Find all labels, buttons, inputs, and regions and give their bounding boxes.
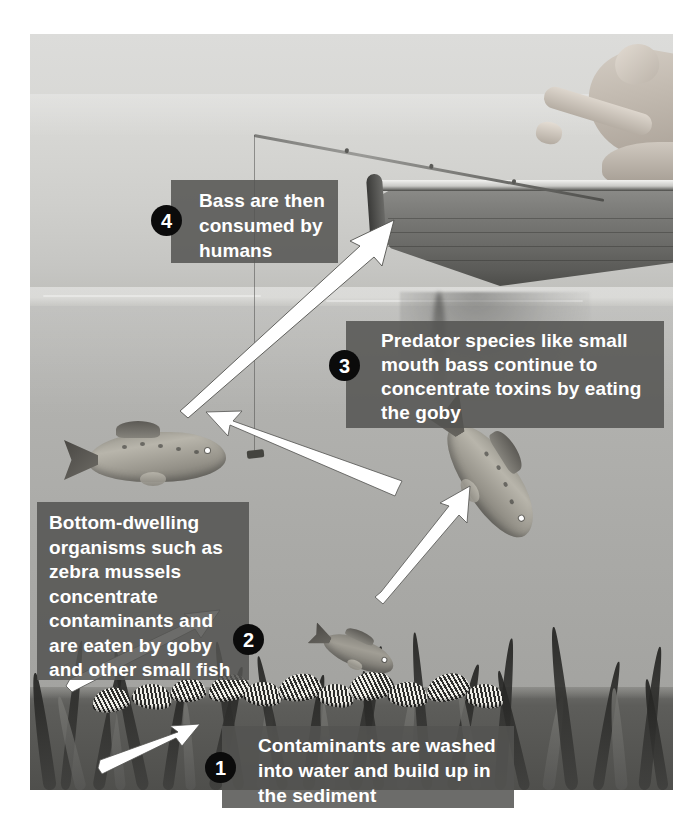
step-badge-3-number: 3	[339, 356, 350, 376]
rod-guide-icon	[512, 179, 517, 185]
step-badge-4-number: 4	[161, 211, 172, 231]
rod-guide-icon	[429, 164, 434, 170]
angler-hand	[534, 120, 563, 146]
step-badge-2: 2	[233, 624, 264, 655]
bass-spot	[122, 445, 127, 449]
hull-plank	[388, 232, 673, 233]
bass-dorsal-fin	[116, 421, 160, 438]
step-badge-3: 3	[329, 350, 360, 381]
hull-plank	[388, 246, 673, 247]
step-badge-4: 4	[151, 205, 182, 236]
bass-eye	[205, 448, 210, 453]
bass-pectoral-fin	[140, 472, 166, 486]
caption-3-text: Predator species like small mouth bass c…	[381, 329, 664, 425]
caption-box-4: Bass are then consumed by humans	[171, 180, 338, 263]
caption-box-1: Contaminants are washed into water and b…	[222, 726, 514, 808]
figure-canvas: Bass are then consumed by humans 4 Preda…	[0, 0, 695, 832]
surface-ripple	[43, 295, 262, 297]
bass-spot	[158, 444, 163, 448]
bass-spot	[194, 450, 199, 454]
step-badge-2-number: 2	[243, 630, 254, 650]
hull-plank	[388, 218, 673, 219]
bass-spot	[176, 447, 181, 451]
smallmouth-bass-left	[88, 432, 226, 482]
caption-4-text: Bass are then consumed by humans	[199, 188, 338, 263]
caption-box-3: Predator species like small mouth bass c…	[346, 321, 664, 428]
angler-figure	[530, 44, 673, 194]
rod-guide-icon	[344, 148, 349, 154]
caption-2-text: Bottom-dwelling organisms such as zebra …	[49, 511, 249, 683]
caption-1-text: Contaminants are washed into water and b…	[258, 733, 514, 808]
boat-hull	[368, 184, 673, 286]
caption-box-2: Bottom-dwelling organisms such as zebra …	[37, 502, 249, 680]
bass-spot	[140, 442, 145, 446]
rowboat	[368, 174, 673, 292]
hull-plank	[388, 260, 673, 261]
step-badge-1-number: 1	[215, 758, 226, 778]
step-badge-1: 1	[205, 752, 236, 783]
